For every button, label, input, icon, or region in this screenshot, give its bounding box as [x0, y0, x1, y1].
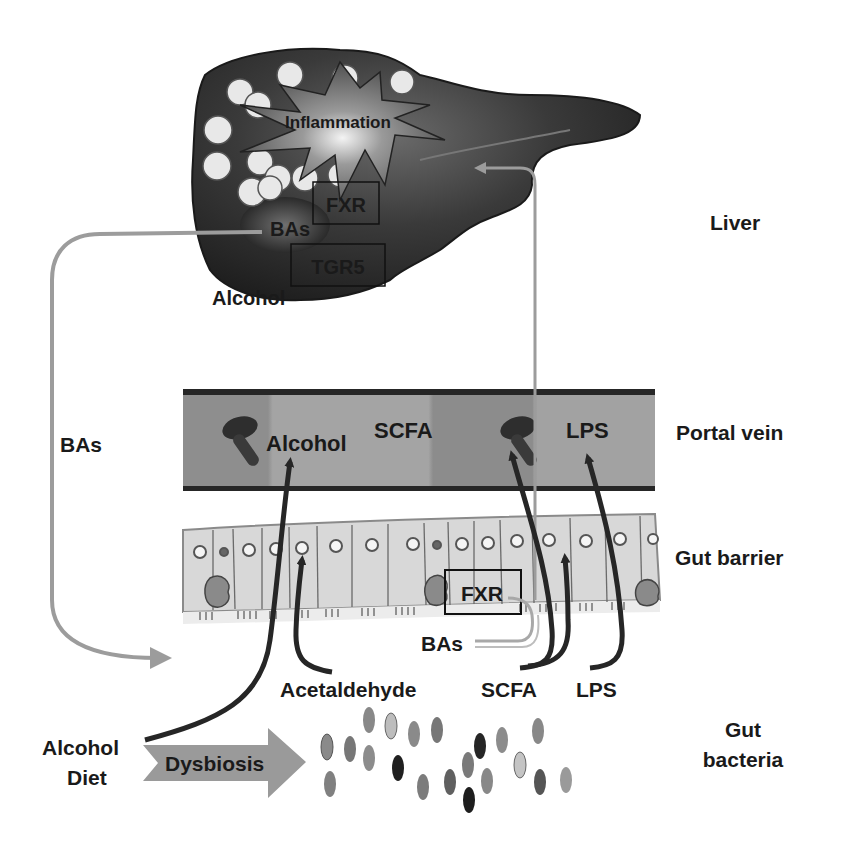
- input-diet-label: Diet: [67, 766, 107, 789]
- layer-gut-bacteria-line2: bacteria: [703, 748, 784, 771]
- layer-portal-vein-label: Portal vein: [676, 421, 783, 444]
- gut-liver-axis-diagram: Inflammation FXR BAs TGR5 Alcohol Alcoho…: [0, 0, 852, 854]
- liver-tgr5-label: TGR5: [311, 256, 364, 278]
- loop-bas-label: BAs: [60, 433, 102, 456]
- gut-fxr-label: FXR: [461, 582, 503, 605]
- liver-alcohol-label: Alcohol: [212, 287, 285, 309]
- inflammation-label: Inflammation: [285, 113, 391, 132]
- layer-liver-label: Liver: [710, 211, 760, 234]
- layer-gut-barrier-label: Gut barrier: [675, 546, 784, 569]
- portal-alcohol-label: Alcohol: [266, 431, 347, 456]
- lumen-lps-label: LPS: [576, 678, 617, 701]
- portal-lps-label: LPS: [566, 418, 609, 443]
- portal-scfa-label: SCFA: [374, 418, 433, 443]
- portal-vein-top-wall: [183, 389, 655, 395]
- layer-gut-bacteria-line1: Gut: [725, 718, 761, 741]
- gut-bas-label: BAs: [421, 632, 463, 655]
- portal-vein-bottom-wall: [183, 486, 655, 491]
- input-alcohol-label: Alcohol: [42, 736, 119, 759]
- acetaldehyde-label: Acetaldehyde: [280, 678, 417, 701]
- liver-organ: Inflammation FXR BAs TGR5 Alcohol: [192, 49, 640, 309]
- lumen-scfa-label: SCFA: [481, 678, 537, 701]
- gut-bacteria-cluster: [321, 707, 572, 813]
- gut-epithelium: FXR: [183, 514, 660, 624]
- liver-bas-label: BAs: [270, 218, 310, 240]
- liver-fxr-label: FXR: [326, 194, 367, 216]
- epithelium-band: [183, 514, 660, 612]
- dysbiosis-label: Dysbiosis: [165, 752, 264, 775]
- portal-vein: Alcohol SCFA LPS: [183, 389, 655, 491]
